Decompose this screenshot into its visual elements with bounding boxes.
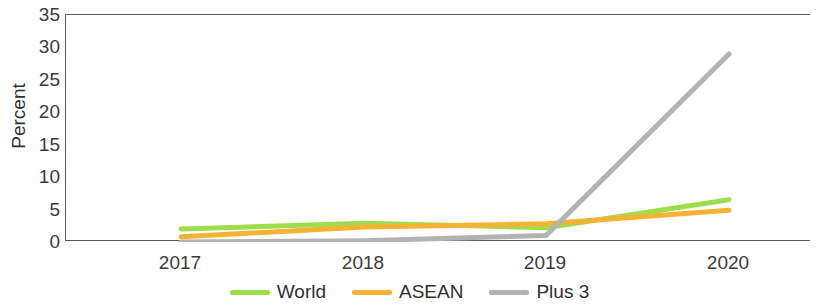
line-chart-figure: Percent 35302520151050 WorldASEANPlus 3 …	[0, 0, 819, 304]
y-axis-tick-label: 5	[14, 199, 60, 218]
y-axis-tick-labels: 35302520151050	[8, 0, 60, 304]
legend-item-plus-3[interactable]: Plus 3	[489, 281, 589, 303]
y-axis-tick-label: 25	[14, 69, 60, 88]
series-lines	[66, 15, 811, 242]
x-axis-tick-label: 2020	[707, 252, 749, 274]
chart-legend: WorldASEANPlus 3	[0, 281, 819, 303]
legend-label: Plus 3	[536, 281, 589, 303]
y-axis-tick-label: 35	[14, 5, 60, 24]
x-axis-tick-label: 2018	[342, 252, 384, 274]
y-axis-tick-label: 15	[14, 134, 60, 153]
x-axis-tick-label: 2017	[159, 252, 201, 274]
y-axis-tick-label: 10	[14, 167, 60, 186]
plot-area	[65, 14, 810, 241]
series-line-asean	[181, 210, 729, 237]
y-axis-tick-label: 20	[14, 102, 60, 121]
x-axis-tick-label: 2019	[524, 252, 566, 274]
legend-swatch-icon	[352, 290, 392, 295]
y-axis-tick-label: 30	[14, 37, 60, 56]
legend-label: World	[277, 281, 326, 303]
legend-swatch-icon	[489, 290, 529, 295]
y-axis-tick-label: 0	[14, 232, 60, 251]
legend-item-asean[interactable]: ASEAN	[352, 281, 463, 303]
legend-item-world[interactable]: World	[230, 281, 326, 303]
legend-swatch-icon	[230, 290, 270, 295]
legend-label: ASEAN	[399, 281, 463, 303]
